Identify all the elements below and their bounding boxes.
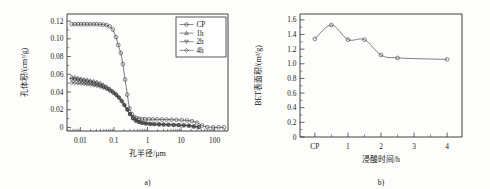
y-tick-label: 1.4 (287, 30, 297, 39)
figure-container: 0.010.111010000.020.040.060.080.100.12孔半… (0, 0, 490, 189)
plot-frame (300, 14, 462, 137)
x-tick-label: 1 (146, 136, 150, 145)
legend-label: CP (197, 21, 206, 29)
panel-a-svg: 0.010.111010000.020.040.060.080.100.12孔半… (0, 0, 245, 189)
y-tick-label: 0.08 (51, 52, 64, 61)
y-tick-label: 0.06 (51, 70, 64, 79)
data-marker (313, 37, 317, 41)
panel-b-svg: 00.20.40.60.81.01.21.41.6CP1234浸酸时间/hBET… (245, 0, 490, 189)
y-tick-label: 0.04 (51, 88, 64, 97)
x-tick-label: 0.01 (74, 136, 87, 145)
y-tick-label: 0.4 (287, 103, 297, 112)
y-tick-label: 1.0 (287, 59, 297, 68)
x-axis-title: 浸酸时间/h (362, 154, 400, 164)
panel-a-pore-volume: 0.010.111010000.020.040.060.080.100.12孔半… (0, 0, 245, 189)
x-tick-label: 4 (445, 142, 449, 151)
x-tick-label: 0.1 (109, 136, 119, 145)
series-bet (313, 23, 449, 61)
panel-tag: a) (145, 178, 151, 187)
panel-b-bet-surface-area: 00.20.40.60.81.01.21.41.6CP1234浸酸时间/hBET… (245, 0, 490, 189)
y-tick-label: 0.02 (51, 105, 64, 114)
y-tick-label: 0.2 (287, 118, 297, 127)
x-tick-label: 2 (379, 142, 383, 151)
legend-label: 4h (197, 47, 205, 55)
legend: CP1h2h4h (176, 17, 226, 57)
x-tick-label: 10 (177, 136, 185, 145)
y-tick-label: 0.12 (51, 17, 64, 26)
legend-label: 1h (197, 30, 205, 38)
panel-tag: b) (378, 178, 385, 187)
y-tick-label: 0.10 (51, 34, 64, 43)
x-tick-label: 3 (412, 142, 416, 151)
y-tick-label: 0 (293, 133, 297, 142)
x-axis-title: 孔半径/μm (129, 148, 165, 158)
y-tick-label: 1.6 (287, 15, 297, 24)
y-tick-label: 0.8 (287, 74, 297, 83)
series-line (315, 25, 447, 59)
y-axis-title: 孔体积/(cm³/g) (19, 47, 29, 97)
x-tick-label: CP (310, 142, 319, 151)
x-tick-label: 1 (346, 142, 350, 151)
y-tick-label: 0 (60, 123, 64, 132)
x-tick-label: 100 (209, 136, 220, 145)
y-axis-title: BET表面积/(m²/g) (253, 45, 263, 106)
y-tick-label: 1.2 (287, 45, 297, 54)
y-tick-label: 0.6 (287, 89, 297, 98)
legend-label: 2h (197, 38, 205, 46)
